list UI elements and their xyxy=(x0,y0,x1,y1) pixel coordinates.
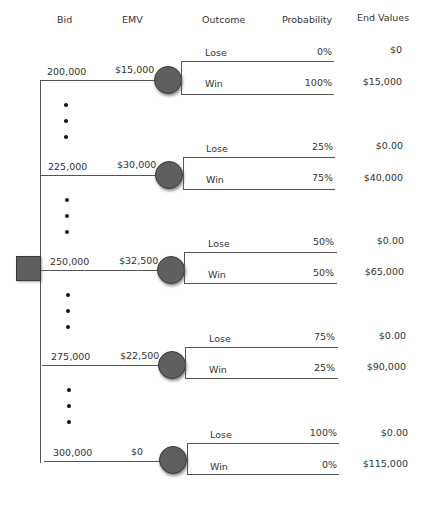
bid-branch-300000: 300,000 $0 Lose 100% $0.00 Win 0% $115,0… xyxy=(0,0,440,505)
bid-line xyxy=(44,461,162,462)
lose-probability: 100% xyxy=(295,427,337,438)
win-label: Win xyxy=(210,461,228,472)
win-end-value: $115,000 xyxy=(352,458,408,469)
lose-line xyxy=(187,443,339,444)
bid-value: 300,000 xyxy=(53,447,92,458)
win-probability: 0% xyxy=(295,459,337,470)
lose-end-value: $0.00 xyxy=(356,427,408,438)
emv-value: $0 xyxy=(131,446,143,457)
win-line xyxy=(187,474,339,475)
outcome-bracket-vertical xyxy=(187,443,188,475)
lose-label: Lose xyxy=(210,429,232,440)
chance-node-circle-icon xyxy=(159,446,187,474)
